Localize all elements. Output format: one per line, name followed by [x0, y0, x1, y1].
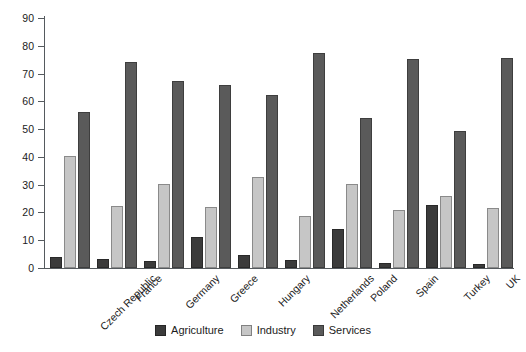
y-axis-tick-label: 40	[0, 152, 34, 163]
plot-area	[44, 18, 514, 268]
x-axis-tick-label: Spain	[412, 272, 439, 299]
legend-swatch-icon	[155, 325, 166, 336]
bar-industry[interactable]	[111, 206, 123, 268]
bar-group	[144, 18, 184, 268]
bar-agriculture[interactable]	[97, 259, 109, 268]
y-axis-tick-label: 0	[0, 263, 34, 274]
bar-industry[interactable]	[346, 184, 358, 268]
bar-group	[426, 18, 466, 268]
bar-services[interactable]	[360, 118, 372, 268]
y-axis-tick-label: 90	[0, 13, 34, 24]
legend-label: Agriculture	[171, 325, 224, 336]
bar-services[interactable]	[454, 131, 466, 268]
legend-item[interactable]: Services	[313, 325, 371, 336]
bar-services[interactable]	[219, 85, 231, 268]
bar-group	[238, 18, 278, 268]
y-axis-tick-label: 50	[0, 124, 34, 135]
bar-services[interactable]	[501, 58, 513, 268]
bar-group	[97, 18, 137, 268]
bar-industry[interactable]	[64, 156, 76, 268]
bar-industry[interactable]	[205, 207, 217, 268]
bar-agriculture[interactable]	[191, 237, 203, 268]
y-axis-tick-label: 70	[0, 68, 34, 79]
bar-industry[interactable]	[299, 216, 311, 268]
legend-item[interactable]: Agriculture	[155, 325, 224, 336]
y-axis-tick-label: 60	[0, 96, 34, 107]
x-axis-tick-label: UK	[503, 272, 522, 291]
y-axis-tick	[38, 268, 45, 269]
bar-agriculture[interactable]	[379, 263, 391, 268]
y-axis-tick-label: 20	[0, 207, 34, 218]
bar-group	[379, 18, 419, 268]
x-axis-tick-label: Turkey	[461, 272, 492, 303]
bar-agriculture[interactable]	[50, 257, 62, 268]
y-axis-tick-labels: 0102030405060708090	[0, 0, 34, 352]
legend-label: Industry	[257, 325, 296, 336]
legend-swatch-icon	[313, 325, 324, 336]
y-axis-tick-label: 80	[0, 41, 34, 52]
bar-agriculture[interactable]	[238, 255, 250, 268]
legend-item[interactable]: Industry	[241, 325, 296, 336]
legend-swatch-icon	[241, 325, 252, 336]
bar-group	[332, 18, 372, 268]
x-axis-tick-label: Hungary	[275, 272, 312, 309]
y-axis-tick-label: 30	[0, 179, 34, 190]
bar-group	[50, 18, 90, 268]
bar-industry[interactable]	[252, 177, 264, 268]
legend-label: Services	[329, 325, 371, 336]
x-axis-line	[44, 268, 514, 269]
bar-services[interactable]	[125, 62, 137, 268]
bar-industry[interactable]	[393, 210, 405, 268]
bar-chart: 0102030405060708090 Czech RepublicFrance…	[0, 0, 526, 352]
bar-group	[191, 18, 231, 268]
x-axis-tick-label: Greece	[227, 272, 260, 305]
bar-agriculture[interactable]	[285, 260, 297, 268]
bar-agriculture[interactable]	[426, 205, 438, 268]
bar-group	[473, 18, 513, 268]
chart-legend: AgricultureIndustryServices	[0, 325, 526, 336]
bar-agriculture[interactable]	[332, 229, 344, 268]
bar-services[interactable]	[78, 112, 90, 268]
bar-services[interactable]	[313, 53, 325, 268]
y-axis-tick-label: 10	[0, 235, 34, 246]
bar-industry[interactable]	[487, 208, 499, 268]
bar-services[interactable]	[172, 81, 184, 269]
bar-agriculture[interactable]	[473, 264, 485, 268]
x-axis-tick-label: Germany	[182, 272, 221, 311]
bar-industry[interactable]	[440, 196, 452, 268]
bar-services[interactable]	[407, 59, 419, 268]
bar-services[interactable]	[266, 95, 278, 268]
bar-group	[285, 18, 325, 268]
bar-industry[interactable]	[158, 184, 170, 268]
bar-agriculture[interactable]	[144, 261, 156, 268]
